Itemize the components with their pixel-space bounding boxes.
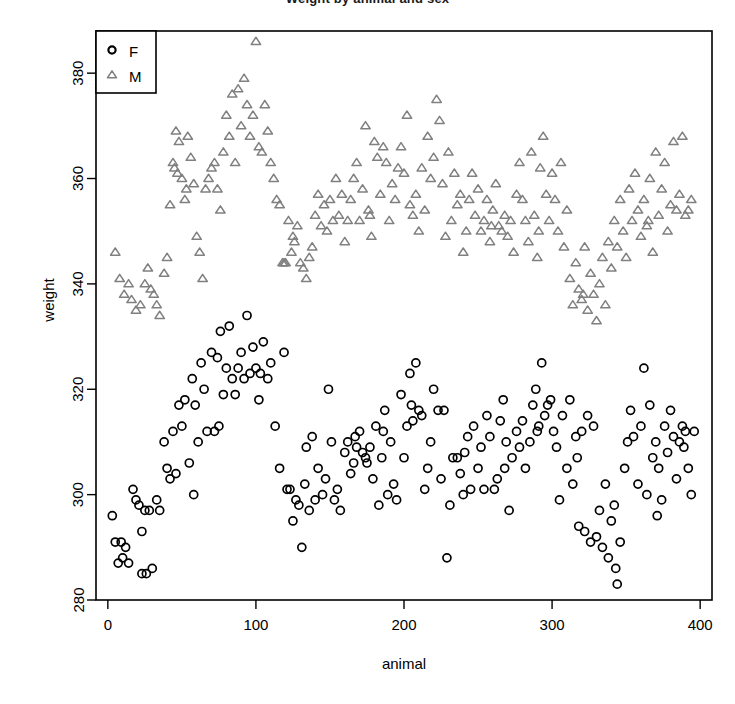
data-point-female	[593, 533, 601, 541]
data-point-female	[655, 464, 663, 472]
data-point-female	[267, 359, 275, 367]
data-point-male	[231, 158, 240, 165]
data-point-female	[314, 464, 322, 472]
data-point-male	[565, 274, 574, 281]
data-point-male	[426, 174, 435, 181]
data-point-female	[595, 506, 603, 514]
data-point-male	[263, 127, 272, 134]
data-point-male	[497, 227, 506, 234]
y-tick-label: 300	[70, 482, 87, 507]
data-point-female	[271, 422, 279, 430]
data-point-female	[496, 417, 504, 425]
data-point-female	[400, 454, 408, 462]
data-point-female	[256, 369, 264, 377]
data-point-male	[325, 195, 334, 202]
data-point-female	[558, 412, 566, 420]
data-point-female	[672, 475, 680, 483]
data-point-female	[249, 343, 257, 351]
data-point-male	[630, 169, 639, 176]
data-point-male	[541, 190, 550, 197]
data-point-male	[624, 185, 633, 192]
data-point-male	[534, 227, 543, 234]
data-point-male	[308, 243, 317, 250]
data-point-male	[287, 248, 296, 255]
data-point-male	[482, 195, 491, 202]
data-point-female	[327, 438, 335, 446]
data-point-male	[578, 290, 587, 297]
data-point-male	[536, 164, 545, 171]
data-point-male	[651, 148, 660, 155]
data-point-male	[302, 274, 311, 281]
data-point-female	[649, 454, 657, 462]
data-point-male	[367, 232, 376, 239]
legend-box	[96, 31, 156, 93]
data-point-female	[216, 327, 224, 335]
data-point-female	[601, 480, 609, 488]
scatter-plot-figure: Weight by animal and sex 010020030040028…	[0, 0, 735, 704]
data-point-male	[512, 190, 521, 197]
data-point-male	[171, 127, 180, 134]
data-point-male	[186, 153, 195, 160]
data-point-male	[500, 211, 509, 218]
data-point-female	[467, 485, 475, 493]
data-point-female	[480, 485, 488, 493]
data-point-female	[456, 470, 464, 478]
data-point-female	[640, 364, 648, 372]
data-point-female	[156, 506, 164, 514]
data-point-female	[344, 438, 352, 446]
data-point-male	[385, 216, 394, 223]
data-point-female	[369, 475, 377, 483]
data-point-male	[435, 116, 444, 123]
data-point-male	[571, 259, 580, 266]
data-point-male	[396, 143, 405, 150]
data-point-female	[563, 464, 571, 472]
data-point-male	[136, 301, 145, 308]
data-point-male	[213, 185, 222, 192]
data-point-male	[580, 243, 589, 250]
data-point-male	[358, 185, 367, 192]
data-point-male	[621, 253, 630, 260]
data-point-female	[643, 491, 651, 499]
data-point-female	[305, 506, 313, 514]
data-point-female	[302, 443, 310, 451]
data-point-male	[402, 111, 411, 118]
data-point-female	[474, 464, 482, 472]
data-point-female	[684, 464, 692, 472]
data-point-female	[658, 496, 666, 504]
data-point-male	[140, 280, 149, 287]
data-point-male	[509, 248, 518, 255]
data-point-male	[343, 216, 352, 223]
data-point-female	[330, 496, 338, 504]
data-point-male	[111, 248, 120, 255]
data-point-female	[231, 391, 239, 399]
data-point-male	[174, 137, 183, 144]
data-point-male	[450, 169, 459, 176]
data-point-female	[324, 385, 332, 393]
legend: FM	[96, 31, 156, 93]
data-point-male	[633, 206, 642, 213]
data-point-male	[159, 269, 168, 276]
data-point-male	[266, 158, 275, 165]
data-point-female	[486, 433, 494, 441]
data-point-female	[566, 396, 574, 404]
data-point-female	[363, 459, 371, 467]
data-point-female	[598, 543, 606, 551]
data-point-female	[427, 438, 435, 446]
data-point-female	[280, 348, 288, 356]
data-point-female	[661, 422, 669, 430]
data-point-female	[407, 401, 415, 409]
data-point-male	[248, 111, 257, 118]
data-point-male	[660, 158, 669, 165]
y-tick-label: 360	[70, 166, 87, 191]
data-point-female	[381, 406, 389, 414]
data-point-male	[470, 211, 479, 218]
data-point-male	[411, 190, 420, 197]
data-point-male	[293, 222, 302, 229]
data-point-female	[384, 491, 392, 499]
data-point-male	[527, 148, 536, 155]
data-point-female	[613, 580, 621, 588]
data-point-male	[284, 216, 293, 223]
data-point-female	[421, 485, 429, 493]
data-point-female	[366, 443, 374, 451]
data-point-male	[352, 158, 361, 165]
